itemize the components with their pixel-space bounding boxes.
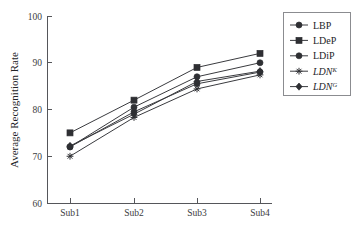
y-ticks-group	[47, 16, 52, 203]
data-point-1-0	[67, 130, 73, 136]
legend-label-0: LBP	[313, 20, 332, 31]
legend: LBPLDePLDiPLDNKLDNG	[283, 12, 350, 95]
data-point-0-3	[257, 60, 263, 66]
series-layer	[67, 50, 264, 159]
series-line-3	[70, 75, 260, 156]
series-lbp	[67, 60, 263, 150]
x-tick-label-sub4: Sub4	[250, 208, 270, 218]
y-axis-title: Average Recognition Rate	[8, 52, 20, 168]
line-chart: 100 90 80 70 60 Sub1 Sub2 Sub3 Sub4 Aver…	[0, 0, 357, 233]
series-line-4	[70, 71, 260, 146]
legend-label-2: LDiP	[313, 50, 335, 61]
legend-label-sup-3: K	[331, 66, 337, 73]
y-tick-labels-group: 100 90 80 70 60	[28, 12, 43, 209]
data-point-1-3	[257, 50, 263, 56]
y-tick-label-60: 60	[33, 199, 43, 209]
data-point-3-2	[194, 86, 201, 93]
legend-marker-1	[296, 37, 302, 43]
axes-group	[47, 16, 272, 203]
legend-marker-0	[296, 22, 302, 28]
series-ldn-g	[67, 68, 263, 150]
x-tick-label-sub3: Sub3	[187, 208, 207, 218]
data-point-1-2	[194, 64, 200, 70]
series-line-1	[70, 53, 260, 132]
y-tick-label-100: 100	[28, 12, 43, 22]
data-point-3-0	[67, 153, 74, 160]
x-tick-label-sub2: Sub2	[124, 208, 144, 218]
legend-label-sup-4: G	[332, 81, 337, 88]
series-ldep	[67, 50, 263, 135]
series-ldn-k	[67, 72, 264, 160]
series-line-2	[70, 72, 260, 147]
legend-label-1: LDeP	[313, 35, 337, 46]
legend-marker-2	[296, 53, 302, 59]
x-tick-labels-group: Sub1 Sub2 Sub3 Sub4	[60, 208, 270, 218]
legend-marker-3	[296, 68, 303, 75]
y-tick-label-90: 90	[33, 58, 43, 68]
y-tick-label-70: 70	[33, 152, 43, 162]
x-tick-label-sub1: Sub1	[60, 208, 80, 218]
figure-container: 100 90 80 70 60 Sub1 Sub2 Sub3 Sub4 Aver…	[0, 0, 357, 233]
x-ticks-group	[70, 198, 260, 203]
data-point-1-1	[131, 97, 137, 103]
y-tick-label-80: 80	[33, 105, 43, 115]
